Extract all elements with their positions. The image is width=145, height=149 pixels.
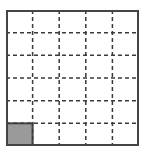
grid-diagram [6,10,139,146]
grid-canvas [6,10,139,146]
filled-cell [6,123,33,146]
